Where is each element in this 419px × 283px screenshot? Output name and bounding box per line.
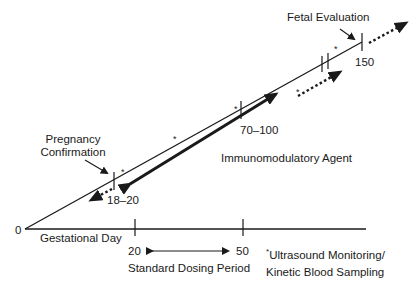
asterisk-2: * [173,135,177,144]
dotted-arrow-top [369,23,406,43]
pregnancy-confirmation-label: Pregnancy Confirmation [38,133,108,159]
pregnancy-line1: Pregnancy [38,133,108,146]
axis-tick-50-label: 50 [236,245,249,258]
agent-arrow [130,94,276,184]
footnote-line2: Kinetic Blood Sampling [266,266,385,279]
axis-origin-label: 0 [15,224,21,237]
diag-label-150: 150 [355,56,374,69]
footnote-line1-text: Ultrasound Monitoring/ [269,249,385,261]
gestational-day-label: Gestational Day [40,232,122,245]
asterisk-4: * [296,88,300,97]
diag-label-70-100: 70–100 [240,124,278,137]
fetal-evaluation-label: Fetal Evaluation [287,11,369,24]
pregnancy-line2: Confirmation [38,146,108,159]
asterisk-3: * [234,105,238,114]
footnote: *Ultrasound Monitoring/ Kinetic Blood Sa… [266,245,385,279]
asterisk-1: * [121,168,125,177]
asterisk-5: * [334,45,338,54]
fetal-callout-arrow [340,29,354,39]
pregnancy-callout-arrow [85,160,107,173]
dotted-arrow-mid [298,72,340,96]
diag-label-18-20: 18–20 [107,194,139,207]
footnote-line1: *Ultrasound Monitoring/ [266,245,385,262]
immunomodulatory-agent-label: Immunomodulatory Agent [221,152,352,165]
axis-tick-20-label: 20 [128,245,141,258]
standard-dosing-period-label: Standard Dosing Period [128,262,250,275]
